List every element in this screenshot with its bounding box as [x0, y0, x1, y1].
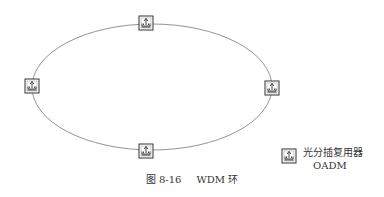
node-top-oadm-icon	[139, 16, 153, 30]
ring-fiber	[32, 24, 272, 150]
figure-title: WDM 环	[197, 174, 239, 185]
node-bottom-oadm-icon	[139, 144, 153, 158]
legend-oadm-icon	[282, 149, 296, 163]
node-right-oadm-icon	[265, 81, 279, 95]
node-left-oadm-icon	[25, 79, 39, 93]
figure-caption: 图 8-16 WDM 环	[0, 171, 384, 186]
figure-number: 图 8-16	[146, 174, 182, 185]
legend-label-cn: 光分插复用器	[303, 147, 363, 159]
